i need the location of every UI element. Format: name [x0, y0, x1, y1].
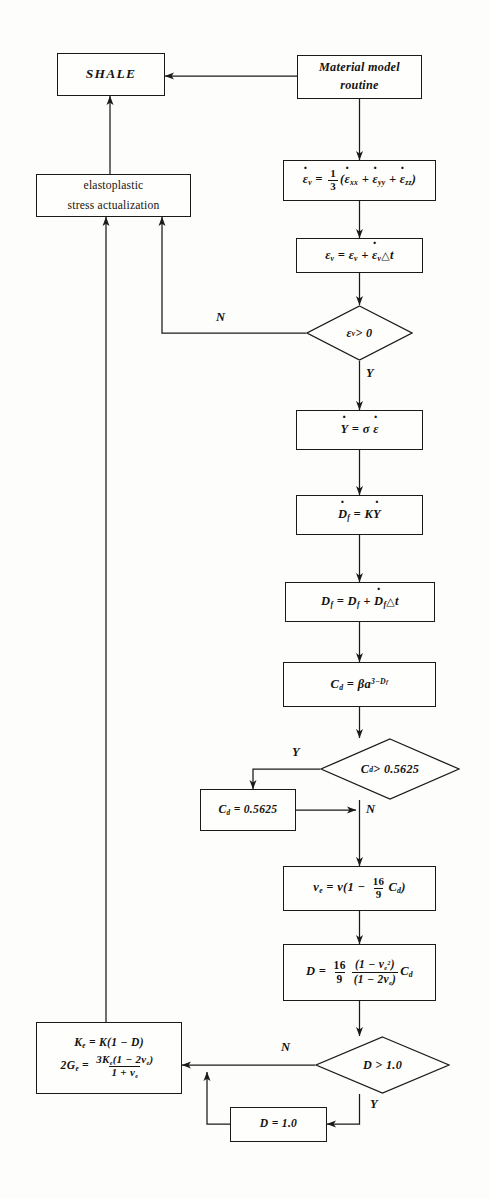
- node-volumetric-strain-rate-label: εv = 13(εxx + εyy + εzz): [284, 168, 435, 193]
- node-d-clamp[interactable]: D = 1.0: [230, 1107, 327, 1142]
- node-material-model-line2: routine: [295, 77, 424, 95]
- wire-checkd-yes-to-dclamp: [327, 1094, 360, 1124]
- node-damage-label: D = 169(1 − νe2)(1 − 2νe)Cd: [284, 958, 435, 986]
- node-volumetric-strain-label: εv = εv + εv△t: [297, 248, 422, 264]
- flowchart-canvas: SHALE Material model routine elastoplast…: [0, 0, 490, 1198]
- node-df-update-label: Df = Df + Df△t: [286, 594, 434, 610]
- branch-label-strain-no: N: [216, 310, 225, 325]
- node-check-cd[interactable]: Cd > 0.5625: [320, 738, 460, 800]
- node-check-volumetric-strain[interactable]: εv > 0: [306, 305, 413, 361]
- node-check-damage[interactable]: D > 1.0: [315, 1036, 450, 1094]
- node-cd-clamp[interactable]: Cd = 0.5625: [200, 789, 296, 831]
- node-poisson[interactable]: νe = ν(1 − 169Cd): [283, 866, 436, 911]
- wire-check-no-to-elastoplastic: [162, 217, 306, 333]
- node-elastoplastic-line1: elastoplastic: [34, 176, 193, 196]
- node-df-rate-label: Df = KY: [297, 507, 422, 523]
- node-volumetric-strain[interactable]: εv = εv + εv△t: [296, 238, 423, 273]
- node-shale[interactable]: SHALE: [57, 53, 165, 96]
- node-moduli[interactable]: Ke = K(1 − D) 2Ge = 3Ke(1 − 2νe)1 + νe: [36, 1022, 182, 1094]
- node-moduli-line1: Ke = K(1 − D): [34, 1036, 184, 1051]
- node-d-clamp-label: D = 1.0: [231, 1117, 326, 1131]
- branch-label-cd-yes: Y: [292, 745, 300, 760]
- branch-label-d-no: N: [281, 1040, 290, 1055]
- node-cd-clamp-label: Cd = 0.5625: [201, 803, 295, 818]
- node-y-rate[interactable]: Y = σ ε: [296, 410, 423, 450]
- wire-checkcd-yes-to-clamp: [253, 769, 320, 789]
- node-cd-calc[interactable]: Cd = βa3−Df: [283, 662, 436, 707]
- node-volumetric-strain-rate[interactable]: εv = 13(εxx + εyy + εzz): [283, 160, 436, 201]
- node-moduli-line2: 2Ge = 3Ke(1 − 2νe)1 + νe: [34, 1054, 184, 1079]
- node-check-volumetric-strain-label: εv > 0: [306, 305, 413, 361]
- node-elastoplastic-line2: stress actualization: [34, 196, 193, 216]
- node-elastoplastic-stress-actualization[interactable]: elastoplastic stress actualization: [36, 174, 191, 217]
- node-material-model-line1: Material model: [295, 59, 424, 77]
- node-check-cd-label: Cd > 0.5625: [320, 738, 460, 800]
- node-df-update[interactable]: Df = Df + Df△t: [285, 582, 435, 622]
- node-poisson-label: νe = ν(1 − 169Cd): [284, 876, 435, 901]
- node-df-rate[interactable]: Df = KY: [296, 495, 423, 535]
- branch-label-cd-no: N: [366, 802, 375, 817]
- branch-label-d-yes: Y: [370, 1097, 378, 1112]
- wire-dclamp-back-to-moduli-line: [207, 1072, 230, 1124]
- node-material-model-routine[interactable]: Material model routine: [297, 55, 422, 99]
- node-check-damage-label: D > 1.0: [315, 1036, 450, 1094]
- branch-label-strain-yes: Y: [366, 366, 374, 381]
- node-damage[interactable]: D = 169(1 − νe2)(1 − 2νe)Cd: [283, 944, 436, 1001]
- node-shale-label: SHALE: [58, 66, 164, 83]
- node-y-rate-label: Y = σ ε: [297, 422, 422, 438]
- node-cd-calc-label: Cd = βa3−Df: [284, 677, 435, 693]
